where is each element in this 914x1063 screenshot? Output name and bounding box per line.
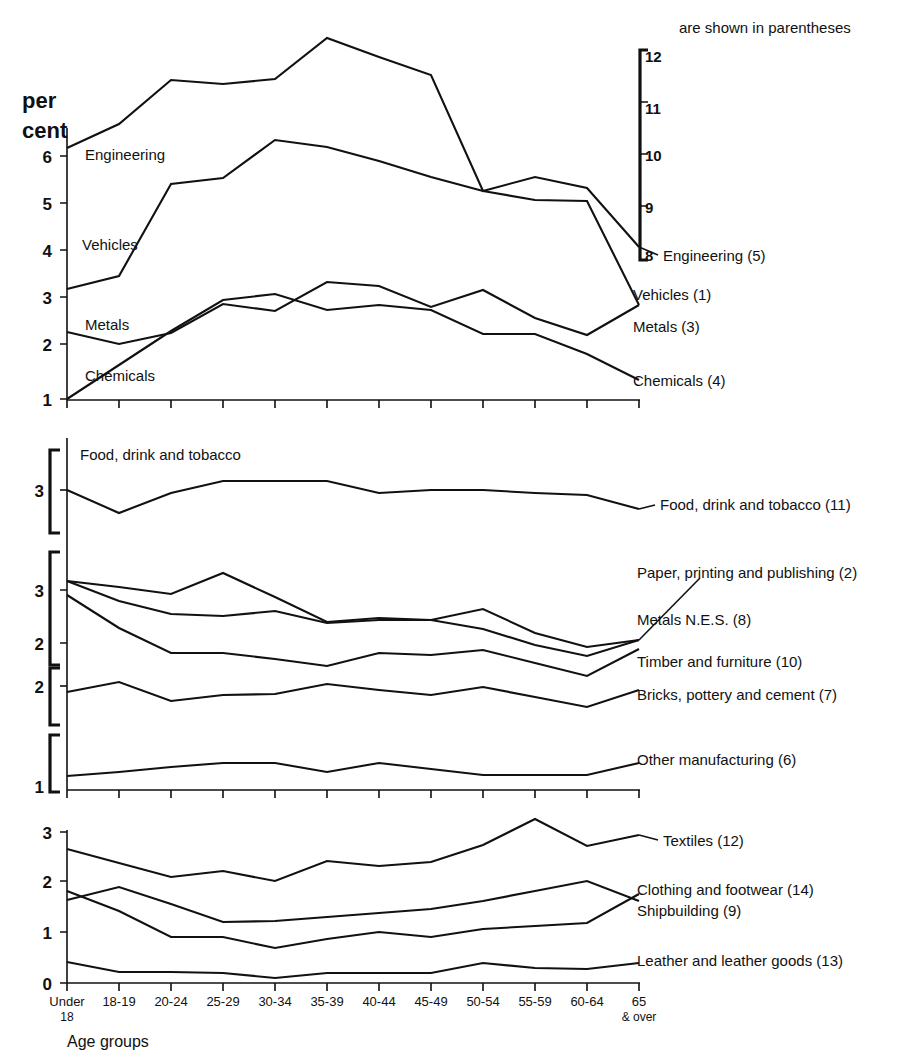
panel3-ytick-0: 0 [43,975,52,994]
xtick-label-2: 20-24 [154,994,187,1009]
panel1-ytick-2: 2 [43,336,52,355]
series-line-metals [67,282,639,344]
end-label-bricks-pottery-cement: Bricks, pottery and cement (7) [637,686,837,703]
leader-food-drink-tobacco [639,505,655,509]
secondary-tick-9: 9 [645,199,653,216]
x-axis-labels: Under 18 18-19 20-24 25-29 30-34 35-39 4… [49,994,656,1050]
panel3-ytick-3: 3 [43,824,52,843]
series-line-bricks-pottery-cement [67,682,639,707]
panel2-x-ticks [67,790,639,798]
panel3-ytick-1: 1 [43,924,52,943]
end-label-timber-furniture: Timber and furniture (10) [637,653,802,670]
xtick-label-1: 18-19 [102,994,135,1009]
inline-label-food-drink-tobacco: Food, drink and tobacco [80,446,241,463]
inline-label-metals: Metals [85,316,129,333]
xtick-label-10: 60-64 [570,994,603,1009]
panel2-bracket-d [50,735,60,792]
end-label-metals: Metals (3) [633,318,700,335]
series-line-vehicles [67,140,639,305]
panel1-ytick-5: 5 [43,195,52,214]
leader-textiles [639,835,658,840]
xtick-label-11-line1: 65 [632,994,646,1009]
panel2-ytick-d-1: 1 [35,778,44,797]
parentheses-note: are shown in parentheses [679,19,851,36]
xtick-label-0-line1: Under [49,994,85,1009]
panel1-ytick-3: 3 [43,289,52,308]
xtick-label-8: 50-54 [466,994,499,1009]
end-label-textiles: Textiles (12) [663,832,744,849]
series-line-clothing-footwear [67,881,639,922]
series-line-other-manufacturing [67,763,639,776]
xtick-label-3: 25-29 [206,994,239,1009]
panel3-y-ticks [60,832,67,983]
end-label-engineering: Engineering (5) [663,247,766,264]
x-axis-title: Age groups [67,1033,149,1050]
panel2-bracket-b [50,552,60,665]
inline-label-vehicles: Vehicles [82,236,138,253]
xtick-label-9: 55-59 [518,994,551,1009]
panel2-bracket-b-ticks [60,590,67,643]
panel2-bracket-a [50,450,60,533]
panel2-bracket-c [50,668,60,725]
inline-label-chemicals: Chemicals [85,367,155,384]
end-label-chemicals: Chemicals (4) [633,372,726,389]
secondary-tick-10: 10 [645,147,662,164]
secondary-tick-12: 12 [645,48,662,65]
inline-label-engineering: Engineering [85,146,165,163]
panel2-ytick-b-2: 2 [35,635,44,654]
xtick-label-7: 45-49 [414,994,447,1009]
end-label-paper-printing-publishing: Paper, printing and publishing (2) [637,564,857,581]
xtick-label-4: 30-34 [258,994,291,1009]
end-label-other-manufacturing: Other manufacturing (6) [637,751,796,768]
panel1-x-ticks [67,400,639,408]
leader-paper-printing-publishing [639,578,700,640]
panel1-ytick-1: 1 [43,391,52,410]
series-line-timber-furniture [67,595,639,676]
y-axis-title-line1: per [22,88,57,113]
panel-1: per cent 1 2 3 4 5 6 Engineering Vehicle… [22,19,851,410]
panel2-ytick-a-3: 3 [35,482,44,501]
series-line-textiles [67,819,639,881]
chart-figure: per cent 1 2 3 4 5 6 Engineering Vehicle… [0,0,914,1063]
xtick-label-6: 40-44 [362,994,395,1009]
series-line-food-drink-tobacco [67,481,639,513]
panel3-ytick-2: 2 [43,873,52,892]
chart-svg: per cent 1 2 3 4 5 6 Engineering Vehicle… [0,0,914,1063]
panel2-ytick-c-2: 2 [35,678,44,697]
series-line-shipbuilding [67,891,639,948]
panel1-ytick-4: 4 [43,242,53,261]
panel2-ytick-b-3: 3 [35,582,44,601]
panel1-y-ticks [60,156,67,399]
end-label-metals-nes: Metals N.E.S. (8) [637,611,751,628]
panel3-x-ticks [67,983,639,991]
end-label-leather-goods: Leather and leather goods (13) [637,952,843,969]
y-axis-title-line2: cent [22,118,68,143]
end-label-shipbuilding: Shipbuilding (9) [637,902,741,919]
xtick-label-5: 35-39 [310,994,343,1009]
panel1-ytick-6: 6 [43,148,52,167]
series-line-leather-goods [67,962,639,978]
panel-2: 3 3 2 2 1 Food, drink and tobacco Food, … [35,438,858,798]
end-label-clothing-footwear: Clothing and footwear (14) [637,881,814,898]
end-label-vehicles: Vehicles (1) [633,286,711,303]
secondary-tick-11: 11 [645,100,661,117]
xtick-label-0-line2: 18 [60,1010,74,1024]
end-label-food-drink-tobacco: Food, drink and tobacco (11) [660,496,851,513]
xtick-label-11-line2: & over [622,1010,657,1024]
panel-3: 0 1 2 3 Textiles (12) Clothing and footw… [43,819,843,994]
